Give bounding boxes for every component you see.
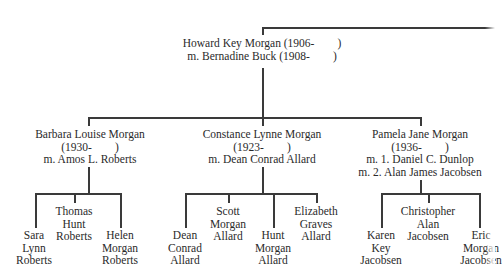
gc-line: Key	[360, 242, 402, 255]
grandchild-thomas-roberts: Thomas Hunt Roberts	[55, 205, 92, 243]
gc-line: Morgan	[460, 242, 502, 255]
gc-1-2-line	[74, 193, 76, 203]
gc-line: Hunt	[55, 218, 92, 231]
gc-line: Scott	[210, 205, 246, 218]
grandchildren-bar-3	[381, 193, 480, 195]
gc-2-2-line	[228, 193, 230, 203]
gc-line: Allard	[210, 230, 246, 243]
child-1-dates: (1930- )	[35, 141, 145, 154]
gc-line: Roberts	[16, 254, 52, 267]
root-down-line	[262, 68, 264, 118]
gc-line: Eric	[460, 229, 502, 242]
gc-line: Conrad	[168, 242, 202, 255]
grandchild-christopher-jacobsen: Christopher Alan Jacobsen	[401, 205, 455, 243]
child-1-name: Barbara Louise Morgan	[35, 128, 145, 141]
gc-3-3-line	[479, 193, 481, 228]
gc-3-2-line	[428, 193, 430, 203]
right-edge-fade	[485, 0, 495, 279]
child-2-down-line	[262, 167, 264, 194]
root-person: Howard Key Morgan (1906- ) m. Bernadine …	[183, 37, 342, 62]
child-3-dates: (1936- )	[358, 141, 481, 154]
gc-line: Helen	[102, 229, 138, 242]
gc-line: Roberts	[102, 254, 138, 267]
gc-line: Alan	[401, 218, 455, 231]
root-line-2: m. Bernadine Buck (1908- )	[183, 50, 342, 63]
root-line-1: Howard Key Morgan (1906- )	[183, 37, 342, 50]
gc-2-1-line	[185, 193, 187, 228]
gc-line: Sara	[16, 229, 52, 242]
gc-line: Jacobsen	[460, 254, 502, 267]
child-1-down-line	[88, 167, 90, 194]
child-2-name: Constance Lynne Morgan	[203, 128, 322, 141]
children-bar	[88, 117, 421, 119]
gc-line: Lynn	[16, 242, 52, 255]
gc-1-3-line	[120, 193, 122, 228]
child-2-person: Constance Lynne Morgan (1923- ) m. Dean …	[203, 128, 322, 166]
gc-line: Hunt	[255, 229, 291, 242]
child-3-down-line	[420, 180, 422, 194]
child-2-up-line	[262, 117, 264, 126]
gc-2-4-line	[316, 193, 318, 203]
grandchild-scott-allard: Scott Morgan Allard	[210, 205, 246, 243]
gc-line: Morgan	[102, 242, 138, 255]
child-1-person: Barbara Louise Morgan (1930- ) m. Amos L…	[35, 128, 145, 166]
gc-line: Thomas	[55, 205, 92, 218]
gc-line: Karen	[360, 229, 402, 242]
child-3-spouse-2: m. 2. Alan James Jacobsen	[358, 166, 481, 179]
child-1-up-line	[88, 117, 90, 126]
grandchild-elizabeth-allard: Elizabeth Graves Allard	[294, 205, 337, 243]
gc-line: Elizabeth	[294, 205, 337, 218]
child-3-name: Pamela Jane Morgan	[358, 128, 481, 141]
child-3-person: Pamela Jane Morgan (1936- ) m. 1. Daniel…	[358, 128, 481, 178]
gc-line: Morgan	[210, 218, 246, 231]
child-3-up-line	[420, 117, 422, 126]
gc-2-3-line	[273, 193, 275, 228]
gc-line: Allard	[294, 230, 337, 243]
child-1-spouse: m. Amos L. Roberts	[35, 153, 145, 166]
child-3-spouse-1: m. 1. Daniel C. Dunlop	[358, 153, 481, 166]
gc-line: Christopher	[401, 205, 455, 218]
gc-1-1-line	[35, 193, 37, 228]
grandchildren-bar-2	[185, 193, 317, 195]
root-up-line	[262, 27, 264, 35]
grandchild-sara-roberts: Sara Lynn Roberts	[16, 229, 52, 267]
gc-line: Jacobsen	[401, 230, 455, 243]
gc-line: Allard	[168, 254, 202, 267]
gc-line: Graves	[294, 218, 337, 231]
top-connector-line	[262, 27, 495, 29]
gc-line: Morgan	[255, 242, 291, 255]
grandchild-hunt-allard: Hunt Morgan Allard	[255, 229, 291, 267]
child-2-dates: (1923- )	[203, 141, 322, 154]
gc-line: Jacobsen	[360, 254, 402, 267]
child-2-spouse: m. Dean Conrad Allard	[203, 153, 322, 166]
grandchild-helen-roberts: Helen Morgan Roberts	[102, 229, 138, 267]
grandchild-karen-jacobsen: Karen Key Jacobsen	[360, 229, 402, 267]
grandchild-dean-allard: Dean Conrad Allard	[168, 229, 202, 267]
grandchildren-bar-1	[35, 193, 121, 195]
gc-line: Dean	[168, 229, 202, 242]
gc-line: Allard	[255, 254, 291, 267]
gc-3-1-line	[381, 193, 383, 228]
grandchild-eric-jacobsen: Eric Morgan Jacobsen	[460, 229, 502, 267]
gc-line: Roberts	[55, 230, 92, 243]
